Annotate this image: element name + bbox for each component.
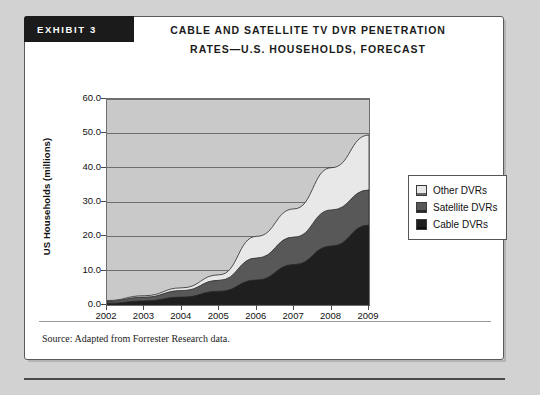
y-tick-label: 0.0	[67, 298, 101, 309]
x-tick-label: 2007	[273, 310, 313, 321]
legend-item: Other DVRs	[416, 182, 497, 199]
legend-item: Cable DVRs	[416, 216, 497, 233]
legend-label: Cable DVRs	[433, 219, 488, 230]
y-tick-label: 50.0	[67, 126, 101, 137]
exhibit-title: CABLE AND SATELLITE TV DVR PENETRATION R…	[143, 21, 473, 59]
x-tick-label: 2009	[348, 310, 388, 321]
legend-swatch-icon	[416, 219, 427, 230]
exhibit-title-line-2: RATES—U.S. HOUSEHOLDS, FORECAST	[143, 40, 473, 59]
source-note: Source: Adapted from Forrester Research …	[42, 333, 230, 344]
card-edge-shadow-bottom	[28, 360, 506, 362]
area-series-group	[107, 135, 369, 305]
chart-area: US Households (millions) 0.010.020.030.0…	[25, 63, 503, 319]
source-divider	[39, 321, 491, 322]
y-tick-label: 30.0	[67, 195, 101, 206]
plot-area	[106, 98, 370, 306]
x-tick-label: 2008	[311, 310, 351, 321]
x-axis-tick-labels: 20022003200420052006200720082009	[106, 310, 368, 326]
x-tick-label: 2006	[236, 310, 276, 321]
x-tick-label: 2004	[161, 310, 201, 321]
bottom-rule	[24, 378, 505, 380]
legend-label: Other DVRs	[433, 185, 487, 196]
x-tick-label: 2002	[86, 310, 126, 321]
y-tick-label: 10.0	[67, 264, 101, 275]
stacked-area-plot	[107, 99, 369, 305]
page-root: EXHIBIT 3 CABLE AND SATELLITE TV DVR PEN…	[0, 0, 540, 395]
x-tick-label: 2005	[198, 310, 238, 321]
chart-legend: Other DVRsSatellite DVRsCable DVRs	[408, 175, 507, 240]
legend-label: Satellite DVRs	[433, 202, 497, 213]
legend-swatch-icon	[416, 202, 427, 213]
x-tick-label: 2003	[123, 310, 163, 321]
legend-swatch-icon	[416, 185, 427, 196]
exhibit-banner-label: EXHIBIT 3	[37, 24, 97, 35]
y-tick-label: 40.0	[67, 161, 101, 172]
y-tick-label: 20.0	[67, 229, 101, 240]
y-axis-tick-labels: 0.010.020.030.040.050.060.0	[63, 98, 101, 304]
legend-item: Satellite DVRs	[416, 199, 497, 216]
exhibit-card: EXHIBIT 3 CABLE AND SATELLITE TV DVR PEN…	[24, 16, 504, 360]
exhibit-banner: EXHIBIT 3	[24, 16, 134, 42]
exhibit-title-line-1: CABLE AND SATELLITE TV DVR PENETRATION	[143, 21, 473, 40]
y-tick-label: 60.0	[67, 92, 101, 103]
y-axis-title: US Households (millions)	[41, 122, 52, 272]
